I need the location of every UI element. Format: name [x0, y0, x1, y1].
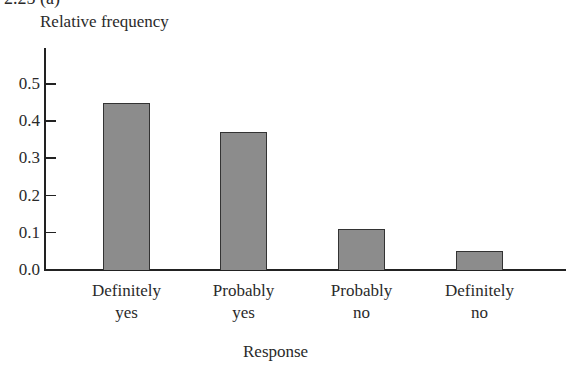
x-category-label-line: Definitely	[425, 280, 535, 302]
x-category-label: Probablyno	[307, 280, 417, 324]
x-category-label-line: yes	[72, 302, 182, 324]
y-tick-mark	[46, 195, 56, 197]
y-tick-mark	[46, 83, 56, 85]
y-tick-label: 0.5	[2, 75, 40, 93]
x-axis-title: Response	[243, 342, 308, 362]
x-category-label: Definitelyyes	[72, 280, 182, 324]
y-tick-label: 0.4	[2, 112, 40, 130]
y-axis-line	[44, 48, 46, 271]
y-tick-label: 0.3	[2, 149, 40, 167]
x-category-label-line: yes	[189, 302, 299, 324]
bar	[338, 229, 385, 270]
bar	[456, 251, 503, 270]
y-tick-mark	[46, 157, 56, 159]
y-axis-title: Relative frequency	[40, 12, 169, 32]
x-category-label: Definitelyno	[425, 280, 535, 324]
y-tick-mark	[46, 232, 56, 234]
x-category-label: Probablyyes	[189, 280, 299, 324]
y-tick-label: 0.0	[2, 261, 40, 279]
bar	[220, 132, 267, 270]
x-category-label-line: no	[307, 302, 417, 324]
x-category-label-line: no	[425, 302, 535, 324]
x-category-label-line: Probably	[189, 280, 299, 302]
figure-label: 2.25 (a)	[4, 0, 60, 9]
bar	[103, 103, 150, 270]
x-category-label-line: Definitely	[72, 280, 182, 302]
y-tick-label: 0.1	[2, 224, 40, 242]
y-tick-label: 0.2	[2, 187, 40, 205]
x-category-label-line: Probably	[307, 280, 417, 302]
y-tick-mark	[46, 120, 56, 122]
